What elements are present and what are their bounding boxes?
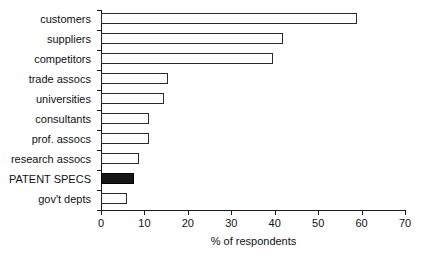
- y-axis-tick: [97, 170, 101, 171]
- y-axis-tick: [97, 130, 101, 131]
- x-axis-tick: [362, 210, 363, 215]
- x-axis-tick: [231, 210, 232, 215]
- category-label-consultants: consultants: [35, 112, 91, 126]
- x-axis-tick: [188, 210, 189, 215]
- bar-suppliers: [101, 33, 283, 44]
- category-label-patent-specs: PATENT SPECS: [9, 172, 91, 186]
- plot-area: [101, 10, 405, 210]
- bar-universities: [101, 93, 164, 104]
- x-axis-tick-label: 60: [347, 217, 377, 229]
- bar-customers: [101, 13, 357, 24]
- x-axis-tick-label: 10: [129, 217, 159, 229]
- category-axis-labels: customers suppliers competitors trade as…: [0, 10, 96, 210]
- category-label-customers: customers: [40, 12, 91, 26]
- category-label-competitors: competitors: [34, 52, 91, 66]
- x-axis-tick: [101, 210, 102, 215]
- x-axis-tick: [275, 210, 276, 215]
- x-axis-tick-label: 0: [86, 217, 116, 229]
- y-axis-tick: [97, 190, 101, 191]
- bar-consultants: [101, 113, 149, 124]
- x-axis-tick-label: 50: [303, 217, 333, 229]
- bar-research-assocs: [101, 153, 139, 164]
- y-axis-tick: [97, 150, 101, 151]
- bar-trade-assocs: [101, 73, 168, 84]
- bar-govt-depts: [101, 193, 127, 204]
- x-axis-tick-label: 40: [260, 217, 290, 229]
- bar-competitors: [101, 53, 273, 64]
- category-label-research-assocs: research assocs: [11, 152, 91, 166]
- category-label-universities: universities: [36, 92, 91, 106]
- x-axis-tick-label: 20: [173, 217, 203, 229]
- y-axis-tick: [97, 110, 101, 111]
- x-axis-tick: [405, 210, 406, 215]
- bar-chart: customers suppliers competitors trade as…: [0, 0, 427, 262]
- category-label-trade-assocs: trade assocs: [29, 72, 91, 86]
- bar-patent-specs: [101, 173, 134, 184]
- y-axis-tick: [97, 70, 101, 71]
- category-label-suppliers: suppliers: [47, 32, 91, 46]
- x-axis-tick: [144, 210, 145, 215]
- y-axis-tick: [97, 90, 101, 91]
- x-axis-tick-label: 70: [390, 217, 420, 229]
- x-axis-tick-label: 30: [216, 217, 246, 229]
- y-axis-tick: [97, 30, 101, 31]
- x-axis-title: % of respondents: [101, 235, 406, 247]
- y-axis-tick: [97, 10, 101, 11]
- x-axis-tick: [318, 210, 319, 215]
- x-axis-line: [101, 210, 406, 211]
- category-label-govt-depts: gov't depts: [38, 192, 91, 206]
- bar-prof-assocs: [101, 133, 149, 144]
- category-label-prof-assocs: prof. assocs: [32, 132, 91, 146]
- y-axis-tick: [97, 50, 101, 51]
